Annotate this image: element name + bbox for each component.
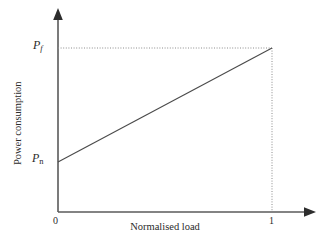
pn-subscript: n — [39, 156, 43, 166]
chart-figure: Power consumption Normalised load Pf Pn … — [0, 0, 331, 247]
y-axis-title: Power consumption — [13, 68, 24, 178]
pf-marker-label: Pf — [33, 39, 43, 52]
chart-plot-area — [0, 0, 331, 247]
x-tick-label-0: 0 — [53, 216, 58, 226]
power-consumption-data-line — [58, 48, 272, 162]
pn-marker-label: Pn — [32, 152, 44, 165]
x-axis-arrow-icon — [304, 207, 316, 217]
x-axis-title: Normalised load — [110, 222, 220, 233]
y-axis-arrow-icon — [53, 8, 63, 20]
pf-subscript: f — [40, 43, 42, 53]
x-tick-label-1: 1 — [269, 216, 274, 226]
